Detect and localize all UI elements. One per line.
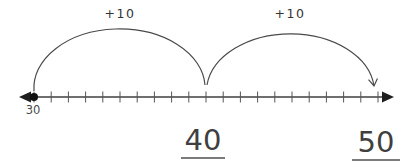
- jump-label-1: +10: [105, 6, 136, 21]
- number-line-diagram: +10 +10 30 40 50: [0, 0, 411, 168]
- start-point-dot: [30, 93, 38, 101]
- axis-left-arrowhead: [19, 92, 31, 103]
- axis-right-arrowhead: [382, 92, 394, 103]
- jump-arc-1: [34, 29, 205, 91]
- axis-ticks: [34, 92, 378, 103]
- start-point-label: 30: [26, 103, 41, 117]
- answer-blank-50: 50: [352, 128, 400, 161]
- jump-arc-2: [207, 34, 374, 86]
- answer-blank-40: 40: [181, 126, 225, 159]
- jump-label-2: +10: [275, 6, 306, 21]
